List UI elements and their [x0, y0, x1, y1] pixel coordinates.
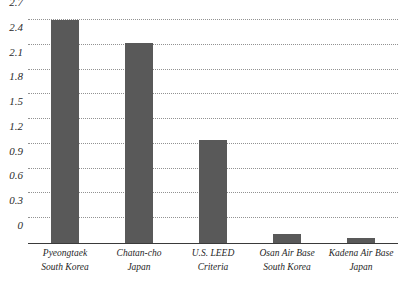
bar: [199, 140, 227, 243]
bar-chart: 00.30.60.91.21.51.82.12.42.7 PyeongtaekS…: [0, 0, 408, 285]
x-axis-category-label: Kadena Air BaseJapan: [318, 247, 404, 274]
y-axis-tick-label: 2.7: [9, 0, 23, 8]
bar: [273, 234, 301, 243]
x-axis-label-line-2: Japan: [318, 261, 404, 275]
y-axis-tick-label: 0.6: [9, 170, 23, 181]
y-axis-tick-label: 2.4: [9, 22, 23, 33]
y-axis-tick-label: 2.1: [9, 47, 23, 58]
y-axis-tick-label: 0.3: [9, 195, 23, 206]
bar: [51, 20, 79, 243]
x-axis-labels-group: PyeongtaekSouth KoreaChatan-choJapanU.S.…: [28, 247, 398, 285]
y-axis-tick-label: 0: [18, 220, 24, 231]
y-axis-tick-label: 1.2: [9, 121, 23, 132]
x-axis-line: [28, 243, 398, 244]
bars-group: [28, 8, 398, 243]
y-axis-tick-label: 1.5: [9, 96, 23, 107]
x-axis-label-line-1: Kadena Air Base: [318, 247, 404, 261]
y-axis-tick-label: 1.8: [9, 71, 23, 82]
y-axis-tick-label: 0.9: [9, 146, 23, 157]
bar: [125, 43, 153, 243]
